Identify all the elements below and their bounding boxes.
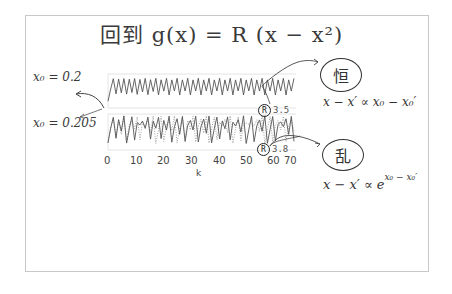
x-axis-label: k bbox=[196, 168, 201, 178]
x-tick: 0 bbox=[104, 155, 110, 166]
chaos-annotation: 乱 bbox=[322, 139, 364, 171]
x-tick: 20 bbox=[157, 155, 170, 166]
x-tick: 30 bbox=[185, 155, 198, 166]
x-tick: 50 bbox=[240, 155, 253, 166]
x-tick: 40 bbox=[213, 155, 226, 166]
x-tick: 10 bbox=[130, 155, 143, 166]
arrow-icon bbox=[76, 94, 104, 108]
linear-divergence-formula: x − x′ ∝ x₀ − x₀′ bbox=[323, 95, 416, 109]
arrow-icon bbox=[80, 109, 102, 117]
r-value-tag-top: R3.5 bbox=[258, 104, 289, 117]
x-tick: 60 bbox=[267, 155, 280, 166]
exponential-divergence-formula: x − x′ ∝ ex₀ − x₀′ bbox=[323, 176, 417, 192]
logistic-map-plots bbox=[0, 0, 452, 294]
r-circle-icon: R bbox=[258, 104, 271, 117]
steady-annotation: 恒 bbox=[320, 58, 362, 92]
x-tick: 70 bbox=[284, 155, 297, 166]
